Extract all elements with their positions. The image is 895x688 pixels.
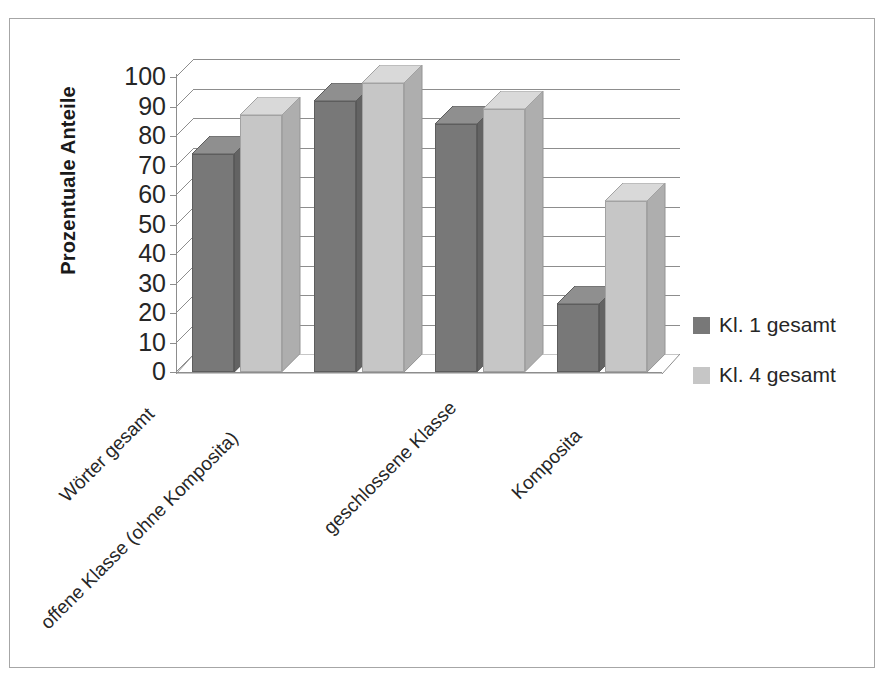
bar-front-face xyxy=(435,124,477,372)
y-axis-tick-label: 10 xyxy=(106,330,166,355)
bar-kl1 xyxy=(435,124,477,372)
y-axis-tick-label: 90 xyxy=(106,94,166,119)
y-axis-tick xyxy=(170,136,177,137)
y-axis-tick-label: 20 xyxy=(106,300,166,325)
x-axis-category-label: Komposita xyxy=(508,426,585,503)
bar-front-face xyxy=(557,304,599,372)
bar-top-face xyxy=(362,65,424,85)
y-axis-tick-label: 60 xyxy=(106,182,166,207)
y-axis-tick-label: 50 xyxy=(106,212,166,237)
y-axis-tick-label: 100 xyxy=(106,64,166,89)
gridline xyxy=(194,59,680,60)
bar-top-face xyxy=(240,97,302,117)
bar-front-face xyxy=(605,201,647,372)
y-axis-tick xyxy=(170,254,177,255)
bar-side-face xyxy=(647,183,667,374)
y-axis-tick xyxy=(170,195,177,196)
y-axis-tick xyxy=(170,284,177,285)
y-axis-tick-label: 70 xyxy=(106,153,166,178)
bar-kl1 xyxy=(557,304,599,372)
bar-front-face xyxy=(314,101,356,372)
y-axis-tick xyxy=(170,77,177,78)
y-axis-title: Prozentuale Anteile xyxy=(57,61,80,301)
y-axis-tick xyxy=(170,225,177,226)
y-axis-tick-label: 80 xyxy=(106,123,166,148)
bar-kl1 xyxy=(314,101,356,372)
legend-item: Kl. 1 gesamt xyxy=(693,313,868,337)
y-axis-tick-label: 40 xyxy=(106,241,166,266)
legend-label: Kl. 4 gesamt xyxy=(719,363,836,387)
x-axis-category-label: geschlossene Klasse xyxy=(320,398,460,538)
legend-label: Kl. 1 gesamt xyxy=(719,313,836,337)
bar-kl4 xyxy=(362,83,404,372)
y-axis-tick xyxy=(170,107,177,108)
bar-side-face xyxy=(404,65,424,374)
bar-top-face xyxy=(605,183,667,203)
legend-swatch-icon xyxy=(693,367,710,384)
bar-front-face xyxy=(362,83,404,372)
chart-figure-frame: 0102030405060708090100 Prozentuale Antei… xyxy=(9,18,875,668)
y-axis-tick xyxy=(170,313,177,314)
legend-swatch-icon xyxy=(693,317,710,334)
bar-kl1 xyxy=(192,154,234,372)
bar-kl4 xyxy=(605,201,647,372)
bar-kl4 xyxy=(483,109,525,372)
bar-kl4 xyxy=(240,115,282,372)
x-axis-line xyxy=(176,372,662,373)
bar-front-face xyxy=(192,154,234,372)
plot-area: 0102030405060708090100 Prozentuale Antei… xyxy=(10,19,876,669)
y-axis-tick-label: 30 xyxy=(106,271,166,296)
gridline-depth-connector xyxy=(176,59,196,79)
y-axis-tick xyxy=(170,372,177,373)
bar-front-face xyxy=(240,115,282,372)
bar-front-face xyxy=(483,109,525,372)
bar-top-face xyxy=(483,91,545,111)
bar-side-face xyxy=(525,91,545,374)
gridline xyxy=(194,89,680,90)
chart-legend: Kl. 1 gesamtKl. 4 gesamt xyxy=(693,313,868,413)
y-axis-line xyxy=(176,74,177,373)
legend-item: Kl. 4 gesamt xyxy=(693,363,868,387)
bar-side-face xyxy=(282,97,302,374)
y-axis-tick xyxy=(170,166,177,167)
gridline-depth-connector xyxy=(176,89,196,109)
y-axis-tick-label: 0 xyxy=(106,359,166,384)
y-axis-tick xyxy=(170,343,177,344)
